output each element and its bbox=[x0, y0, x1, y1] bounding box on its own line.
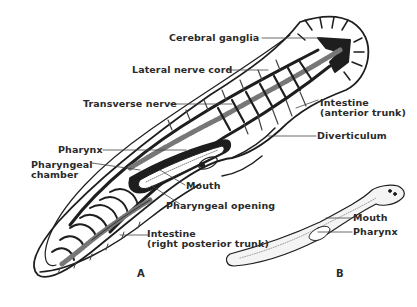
label-b-mouth: Mouth bbox=[353, 213, 388, 223]
figure-a-letter: A bbox=[137, 268, 145, 279]
label-b-pharynx: Pharynx bbox=[353, 227, 398, 237]
label-intestine-anterior: Intestine (anterior trunk) bbox=[320, 98, 406, 118]
label-cerebral-ganglia: Cerebral ganglia bbox=[169, 33, 259, 43]
label-intestine-posterior: Intestine (right posterior trunk) bbox=[147, 229, 269, 249]
label-intestine-anterior-line2: (anterior trunk) bbox=[320, 108, 406, 118]
label-transverse-nerve: Transverse nerve bbox=[83, 99, 177, 109]
label-pharynx: Pharynx bbox=[58, 145, 103, 155]
label-pharyngeal-opening: Pharyngeal opening bbox=[166, 201, 275, 211]
label-lateral-nerve-cord: Lateral nerve cord bbox=[132, 65, 232, 75]
intestine-posterior-trunk bbox=[62, 200, 150, 264]
label-diverticulum: Diverticulum bbox=[317, 131, 387, 141]
planarian-diagram: Cerebral ganglia Lateral nerve cord Tran… bbox=[0, 0, 417, 307]
label-intestine-posterior-line2: (right posterior trunk) bbox=[147, 239, 269, 249]
label-pharyngeal-chamber: Pharyngeal chamber bbox=[31, 160, 93, 180]
lateral-nerve-cord bbox=[70, 50, 318, 225]
figure-b-letter: B bbox=[336, 268, 344, 279]
label-mouth: Mouth bbox=[186, 181, 221, 191]
label-pharyngeal-chamber-line2: chamber bbox=[31, 170, 93, 180]
